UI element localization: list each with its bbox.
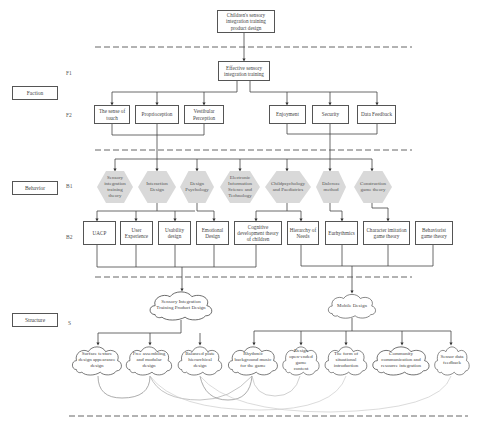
f2-box-security: Security (312, 105, 349, 124)
f2-box-enjoyment: Enjoyment (269, 105, 306, 124)
s-leaf-sensor-data: Sensor data feedback (433, 344, 471, 376)
side-label-structure: Structure (12, 313, 58, 327)
level-label-f1: F1 (66, 70, 72, 76)
s-leaf-community: Community communication and resource int… (370, 344, 432, 376)
f2-box-data-feedback: Data Feedback (357, 105, 396, 124)
b2-box-behaviorist-game: Behaviorist game theory (415, 221, 453, 245)
b2-box-cognitive: Cognitive development theory of children (234, 221, 282, 245)
s-leaf-label: Surface texture design appearance design (70, 351, 124, 369)
f1-box: Effective sensory integration training (218, 61, 270, 81)
s-leaf-free-assembling: Free assembling and modular design (124, 344, 174, 376)
s-leaf-label: Sensor data feedback (433, 354, 471, 366)
s-leaf-surface-texture: Surface texture design appearance design (70, 344, 124, 376)
level-label-f2: F2 (66, 112, 72, 118)
title-box: Children's sensory integration training … (217, 10, 275, 33)
s-cloud-label: Mobile Design (330, 303, 374, 309)
s-leaf-balanced-plate: Balanced plate hierarchical design (176, 344, 224, 376)
s-cloud-sensory-product: Sensory Integration Training Product Des… (147, 289, 215, 321)
b2-box-emotional: Emotional Design (196, 221, 229, 245)
s-leaf-label: The form of situational introduction (323, 351, 369, 369)
b2-box-user-experience: User Experience (120, 221, 153, 245)
s-leaf-label: Community communication and resource int… (370, 351, 432, 369)
f2-box-touch: The sense of touch (94, 105, 130, 124)
s-leaf-label: Free assembling and modular design (124, 351, 174, 369)
b2-box-uacp: UACP (83, 221, 116, 245)
b2-box-usability: Usability design (158, 221, 191, 245)
side-label-faction: Faction (12, 86, 58, 100)
level-label-s: S (68, 320, 71, 326)
s-leaf-label: Balanced plate hierarchical design (176, 351, 224, 369)
side-label-behavior: Behavior (12, 181, 58, 195)
s-cloud-mobile-design: Mobile Design (326, 292, 378, 319)
s-leaf-open-ended: Design open-ended game content (281, 344, 321, 376)
level-label-b1: B1 (66, 183, 72, 189)
s-leaf-situational: The form of situational introduction (323, 344, 369, 376)
s-leaf-rhythmic-music: Rhythmic background music for the game (226, 344, 280, 376)
level-label-b2: B2 (66, 234, 72, 240)
s-leaf-label: Design open-ended game content (281, 348, 321, 372)
b2-box-hierarchy-needs: Hierarchy of Needs (287, 221, 319, 245)
b2-box-character-imitation: Character imitation game theory (363, 221, 410, 245)
f2-box-proprioception: Proprioception (135, 105, 179, 124)
s-cloud-label: Sensory Integration Training Product Des… (147, 299, 215, 311)
s-leaf-label: Rhythmic background music for the game (226, 351, 280, 369)
f2-box-vestibular: Vestibular Perception (184, 105, 224, 124)
b2-box-eurhythmics: Eurhythmics (325, 221, 358, 245)
